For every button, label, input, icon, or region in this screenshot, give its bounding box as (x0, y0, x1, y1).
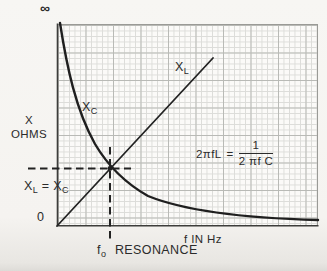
xc-curve (60, 23, 318, 220)
resonance-word: RESONANCE (115, 243, 198, 257)
y-axis-title-line1: X (7, 113, 51, 127)
formula-denominator: 2 πf C (239, 154, 274, 168)
equality-rhs-sub: C (62, 185, 69, 195)
xl-label-base: X (175, 60, 184, 74)
formula-equals-sign: = (227, 148, 234, 160)
textbook-figure: ∞ X OHMS XC XL XL = XC 0 2πfL = 1 2 πf C… (0, 0, 327, 271)
xc-label-sub: C (91, 106, 98, 116)
xl-curve-label: XL (175, 60, 189, 76)
equality-rhs-base: X (53, 179, 62, 193)
resonance-formula: 2πfL = 1 2 πf C (196, 139, 273, 168)
equality-lhs-base: X (24, 179, 33, 193)
origin-tick: 0 (37, 210, 44, 224)
formula-numerator: 1 (239, 139, 274, 154)
equality-annotation: XL = XC (24, 179, 68, 195)
formula-fraction: 1 2 πf C (239, 139, 274, 168)
xl-label-sub: L (184, 66, 189, 76)
equality-equals-sign: = (42, 179, 50, 193)
y-axis-title: X OHMS (7, 113, 51, 141)
xl-line (57, 58, 213, 226)
y-axis-infinity-tick: ∞ (40, 0, 50, 16)
resonance-point (108, 166, 113, 171)
xc-curve-label: XC (82, 100, 97, 116)
y-axis-title-line2: OHMS (7, 127, 51, 141)
equality-lhs-sub: L (33, 185, 38, 195)
resonance-caption: foRESONANCE (97, 243, 198, 259)
xc-label-base: X (82, 100, 91, 114)
f0-sub: o (101, 249, 106, 259)
formula-lhs: 2πfL (196, 148, 222, 160)
